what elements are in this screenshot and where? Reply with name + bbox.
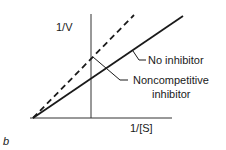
no-inhibitor-label: No inhibitor [148,55,204,66]
noncompetitive-inhibitor-line [33,15,134,118]
no-inhibitor-leader [133,51,146,60]
noncompetitive-label-line1: Noncompetitive [133,75,209,86]
noncompetitive-leader [93,57,128,80]
y-axis-label: 1/V [56,22,73,33]
noncompetitive-label-line2: inhibitor [152,89,191,100]
x-axis-label: 1/[S] [130,123,153,134]
panel-label: b [3,136,9,147]
